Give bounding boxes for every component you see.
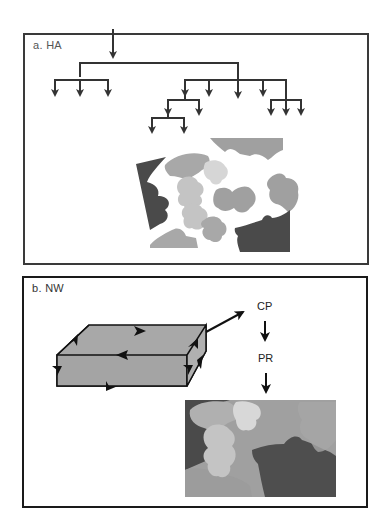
scattered-puzzle (136, 138, 298, 252)
cp-label: CP (257, 300, 272, 312)
assembled-puzzle (185, 400, 336, 497)
pr-label: PR (258, 352, 273, 364)
slab-box (57, 325, 206, 386)
hierarchy-tree (55, 29, 301, 130)
arrow-to-cp (206, 312, 243, 332)
diagram-drawing (0, 0, 383, 525)
